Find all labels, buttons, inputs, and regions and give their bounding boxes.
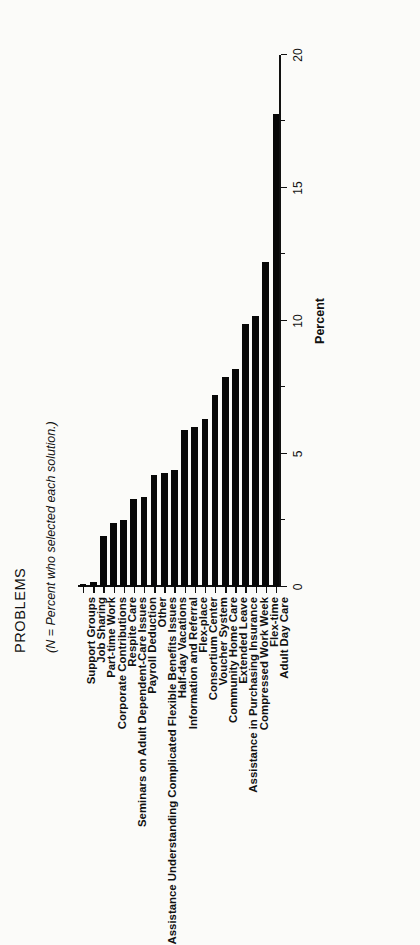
bar-fill <box>191 427 198 587</box>
value-tick-major <box>281 586 287 587</box>
category-tick <box>266 587 267 593</box>
bar-fill <box>141 497 148 587</box>
bar <box>262 262 269 587</box>
value-tick-major <box>281 187 287 188</box>
value-tick-label: 20 <box>291 48 305 61</box>
bar <box>171 470 178 587</box>
bar <box>242 324 249 587</box>
bar <box>181 430 188 587</box>
category-tick <box>185 587 186 593</box>
chart-subtitle: (N = Percent who selected each solution.… <box>44 421 58 653</box>
value-tick-label: 15 <box>291 181 305 194</box>
bar <box>252 316 259 587</box>
bar-fill <box>273 114 280 587</box>
category-label: Support Groups <box>85 597 97 684</box>
bar-fill <box>151 475 158 587</box>
category-tick <box>114 587 115 593</box>
category-tick <box>276 587 277 593</box>
bar-fill <box>110 523 117 587</box>
bar-fill <box>202 419 209 587</box>
bar <box>141 497 148 587</box>
bar <box>161 473 168 587</box>
bar-fill <box>232 369 239 587</box>
value-tick-minor <box>281 253 285 254</box>
bar <box>191 427 198 587</box>
bar <box>130 499 137 587</box>
category-tick <box>195 587 196 593</box>
value-axis-label: Percent <box>313 298 327 344</box>
category-tick <box>164 587 165 593</box>
value-tick-major <box>281 54 287 55</box>
bar-fill <box>181 430 188 587</box>
bar-fill <box>120 521 127 588</box>
bar-fill <box>242 324 249 587</box>
bar-fill <box>171 470 178 587</box>
category-label: Assistance Understanding Complicated Fle… <box>166 597 178 945</box>
bar-fill <box>222 377 229 587</box>
y-axis-line <box>78 585 281 587</box>
page-title: PROBLEMS <box>12 568 28 653</box>
value-tick-minor <box>281 386 285 387</box>
category-tick <box>134 587 135 593</box>
bar-fill <box>161 473 168 587</box>
bar <box>120 521 127 588</box>
bar <box>110 523 117 587</box>
category-tick <box>256 587 257 593</box>
category-tick <box>174 587 175 593</box>
category-tick <box>245 587 246 593</box>
bar-fill <box>100 536 107 587</box>
bar <box>151 475 158 587</box>
category-tick <box>144 587 145 593</box>
category-tick <box>103 587 104 593</box>
value-tick-label: 5 <box>291 451 305 458</box>
category-tick <box>124 587 125 593</box>
category-tick <box>205 587 206 593</box>
value-tick-major <box>281 453 287 454</box>
category-tick <box>235 587 236 593</box>
bar <box>232 369 239 587</box>
value-tick-minor <box>281 120 285 121</box>
value-tick-label: 10 <box>291 314 305 327</box>
value-tick-label: 0 <box>291 584 305 591</box>
bar <box>100 536 107 587</box>
bar-fill <box>262 262 269 587</box>
bar-fill <box>130 499 137 587</box>
bar <box>202 419 209 587</box>
plot-area: 05101520 Adult Day CareFlex-timeCompress… <box>78 55 281 587</box>
x-axis-line <box>279 55 281 587</box>
bar <box>222 377 229 587</box>
category-tick <box>93 587 94 593</box>
bar <box>273 114 280 587</box>
category-tick <box>215 587 216 593</box>
value-tick-major <box>281 320 287 321</box>
bar <box>212 395 219 587</box>
category-tick <box>83 587 84 593</box>
category-tick <box>154 587 155 593</box>
category-tick <box>225 587 226 593</box>
value-tick-minor <box>281 519 285 520</box>
bar-fill <box>252 316 259 587</box>
bar-fill <box>212 395 219 587</box>
